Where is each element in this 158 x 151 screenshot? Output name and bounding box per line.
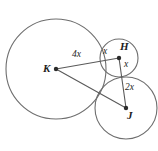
geometry-figure: K H J 4x x x 2x [0,0,158,151]
segment-k-to-j [56,69,126,108]
point-label-h: H [120,41,129,52]
vertex-dot-k [54,67,58,71]
length-label-4x: 4x [72,50,81,60]
length-label-2x: 2x [125,83,134,93]
vertex-dot-h [117,56,121,60]
length-label-x-lower: x [124,60,128,70]
geometry-canvas [0,0,158,151]
length-label-x-upper: x [103,47,107,57]
point-label-k: K [43,63,50,74]
segment-k-to-h [56,58,119,69]
point-label-j: J [127,110,133,121]
